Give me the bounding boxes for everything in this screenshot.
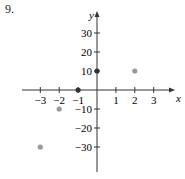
y-tick-label: 30 (81, 27, 93, 39)
data-point (38, 144, 43, 149)
data-point (76, 87, 81, 92)
scatter-plot: xy−3−2−1123−30−20−10102030 (0, 0, 185, 179)
data-point (94, 68, 99, 73)
x-axis-arrow-icon (169, 88, 175, 93)
data-point (57, 106, 62, 111)
data-point (132, 68, 137, 73)
y-axis-arrow-icon (95, 11, 100, 17)
y-tick-label: −10 (75, 103, 93, 115)
x-axis-label: x (175, 92, 181, 104)
y-tick-label: −20 (75, 122, 93, 134)
y-tick-label: −30 (75, 141, 93, 153)
x-tick-label: 3 (151, 94, 157, 106)
x-tick-label: 2 (132, 94, 138, 106)
x-tick-label: −3 (34, 94, 46, 106)
y-tick-label: 20 (81, 46, 93, 58)
y-axis-label: y (88, 9, 94, 21)
x-tick-label: 1 (113, 94, 119, 106)
x-tick-label: −2 (53, 94, 65, 106)
y-tick-label: 10 (81, 65, 93, 77)
